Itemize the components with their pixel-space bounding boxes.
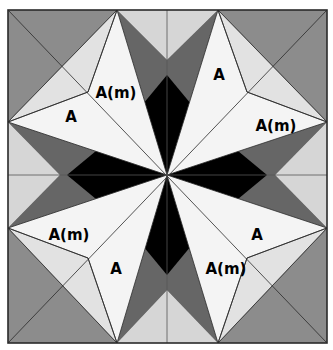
kite-pattern-diagram: A(m) A A A(m) A(m) A A A(m) <box>0 0 333 350</box>
label-bl-am: A(m) <box>49 226 90 244</box>
label-tr-am: A(m) <box>256 117 297 135</box>
label-tl-am: A(m) <box>96 84 137 102</box>
label-br-am: A(m) <box>206 260 247 278</box>
label-tr-a: A <box>213 66 225 84</box>
label-tl-a: A <box>65 108 77 126</box>
label-bl-a: A <box>110 260 122 278</box>
label-br-a: A <box>251 226 263 244</box>
